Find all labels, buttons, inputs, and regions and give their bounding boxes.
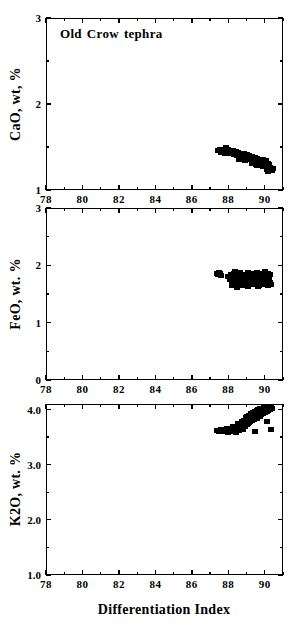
x-tick-major — [191, 18, 192, 23]
y-tick-minor — [280, 351, 283, 352]
x-tick-label: 88 — [222, 578, 234, 590]
y-tick-major — [278, 574, 283, 575]
y-tick-minor — [46, 236, 49, 237]
x-tick-minor — [173, 404, 174, 407]
x-tick-label: 82 — [113, 383, 125, 395]
x-tick-major — [155, 185, 156, 190]
y-axis-title-cao: CaO, wt, % — [8, 67, 24, 141]
y-tick-major — [278, 322, 283, 323]
y-tick-major — [46, 409, 51, 410]
y-tick-major — [46, 103, 51, 104]
x-tick-minor — [137, 187, 138, 190]
x-tick-major — [155, 375, 156, 380]
x-tick-major — [264, 18, 265, 23]
x-tick-minor — [64, 572, 65, 575]
x-tick-minor — [209, 18, 210, 21]
x-tick-major — [82, 404, 83, 409]
x-tick-major — [82, 375, 83, 380]
y-tick-major — [278, 189, 283, 190]
x-tick-label: 82 — [113, 193, 125, 205]
data-point — [224, 426, 230, 431]
data-point — [253, 162, 259, 167]
y-tick-minor — [46, 547, 49, 548]
x-tick-minor — [282, 404, 283, 407]
x-tick-minor — [246, 377, 247, 380]
data-point — [257, 414, 263, 419]
y-tick-major — [278, 464, 283, 465]
x-tick-major — [264, 404, 265, 409]
x-tick-major — [191, 404, 192, 409]
y-tick-major — [46, 464, 51, 465]
x-tick-label: 78 — [40, 193, 52, 205]
y-tick-minor — [46, 293, 49, 294]
data-point — [234, 285, 240, 290]
y-tick-label: 3 — [12, 12, 41, 24]
data-point — [248, 418, 254, 423]
y-tick-major — [278, 519, 283, 520]
y-tick-major — [278, 265, 283, 266]
x-tick-label: 86 — [186, 193, 198, 205]
x-tick-minor — [100, 377, 101, 380]
x-tick-label: 80 — [76, 383, 88, 395]
y-tick-minor — [46, 351, 49, 352]
panel-k2o — [46, 404, 283, 575]
figure-old-crow-tephra: OldCrowtephra 78808284868890 123 CaO, wt… — [0, 0, 298, 630]
x-tick-major — [118, 18, 119, 23]
y-tick-minor — [280, 60, 283, 61]
x-tick-major — [118, 185, 119, 190]
x-tick-minor — [64, 404, 65, 407]
x-tick-major — [264, 208, 265, 213]
x-tick-label: 78 — [40, 578, 52, 590]
y-tick-label: 0 — [12, 374, 41, 386]
x-tick-minor — [246, 187, 247, 190]
y-tick-minor — [46, 146, 49, 147]
data-point — [218, 273, 224, 278]
data-point — [265, 169, 271, 174]
x-tick-minor — [209, 187, 210, 190]
y-tick-major — [278, 17, 283, 18]
x-tick-major — [82, 208, 83, 213]
x-tick-minor — [173, 18, 174, 21]
x-tick-minor — [64, 18, 65, 21]
x-tick-major — [191, 208, 192, 213]
x-tick-label: 84 — [149, 578, 161, 590]
data-point — [267, 405, 273, 410]
x-tick-minor — [246, 572, 247, 575]
x-tick-minor — [246, 18, 247, 21]
y-tick-major — [46, 379, 51, 380]
x-tick-major — [45, 18, 46, 23]
plot-area-k2o — [46, 404, 283, 575]
y-tick-major — [46, 265, 51, 266]
x-tick-major — [191, 185, 192, 190]
x-tick-minor — [173, 208, 174, 211]
y-tick-minor — [46, 492, 49, 493]
x-tick-minor — [100, 187, 101, 190]
data-point — [252, 429, 258, 434]
y-tick-major — [46, 519, 51, 520]
x-tick-label: 84 — [149, 383, 161, 395]
x-tick-minor — [100, 18, 101, 21]
x-tick-major — [118, 404, 119, 409]
y-tick-minor — [280, 547, 283, 548]
y-tick-major — [278, 103, 283, 104]
x-tick-label: 88 — [222, 383, 234, 395]
x-tick-major — [228, 570, 229, 575]
y-tick-major — [46, 189, 51, 190]
x-tick-major — [118, 375, 119, 380]
x-tick-major — [82, 570, 83, 575]
data-point — [244, 282, 250, 287]
data-point — [237, 278, 243, 283]
x-tick-minor — [64, 377, 65, 380]
y-tick-minor — [46, 436, 49, 437]
x-tick-minor — [137, 18, 138, 21]
x-tick-major — [228, 404, 229, 409]
x-tick-major — [228, 208, 229, 213]
x-tick-label: 90 — [259, 578, 271, 590]
data-point — [233, 152, 239, 157]
annotation-old-crow-tephra: OldCrowtephra — [60, 26, 163, 42]
x-tick-minor — [64, 187, 65, 190]
x-tick-major — [264, 185, 265, 190]
x-tick-minor — [209, 208, 210, 211]
x-tick-major — [228, 375, 229, 380]
x-tick-minor — [173, 377, 174, 380]
